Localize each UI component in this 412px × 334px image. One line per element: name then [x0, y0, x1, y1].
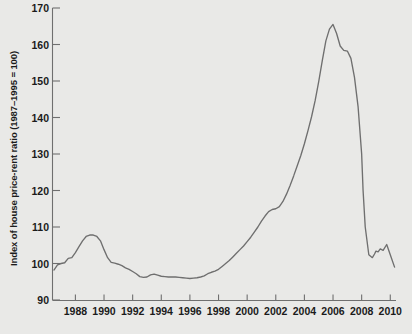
y-axis-tick-marks [53, 8, 61, 300]
x-axis-tick-marks [75, 295, 390, 301]
data-series-line [54, 24, 395, 278]
axis-lines [53, 8, 397, 301]
chart-figure: Index of house price-rent ratio (1987–19… [0, 0, 412, 334]
chart-canvas [0, 0, 412, 334]
